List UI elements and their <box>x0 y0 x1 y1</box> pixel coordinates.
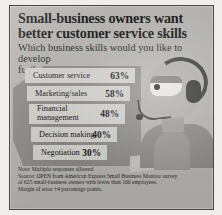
chart-row-value: 63% <box>110 71 129 81</box>
page-title-line-1: Small-business owners want <box>18 11 208 26</box>
agent-torso-highlight <box>154 130 190 170</box>
chart-row: Negotiation 30% <box>33 145 107 160</box>
chart-row-value: 48% <box>100 109 119 119</box>
chart-row-label: Financial management <box>37 105 79 122</box>
chart-row-value: 30% <box>82 148 101 158</box>
chart-row: Financial management 48% <box>29 104 125 124</box>
page-title-line-2: better customer service skills <box>18 26 208 41</box>
infographic-frame: Small-business owners want better custom… <box>0 0 222 215</box>
chart-row-label: Negotiation <box>41 148 80 157</box>
chart-row-label: Customer service <box>33 71 90 80</box>
chart-row: Marketing/sales 58% <box>27 86 130 101</box>
chart-row: Decision making 40% <box>31 127 117 142</box>
page-title: Small-business owners want better custom… <box>18 11 208 40</box>
footnotes: Note: Multiple responses allowed Source:… <box>18 166 208 192</box>
chart-row-value: 40% <box>92 130 111 140</box>
chart-row-value: 58% <box>105 89 124 99</box>
chart-row: Customer service 63% <box>25 68 135 83</box>
footnote-margin-of-error: Margin of error ±4 percentage points. <box>18 186 208 193</box>
survey-step-chart: Customer service 63% Marketing/sales 58%… <box>13 66 141 166</box>
chart-row-label: Marketing/sales <box>35 89 87 98</box>
headset-earcup-icon <box>186 80 201 103</box>
headset-microphone-icon <box>136 114 143 120</box>
customer-service-agent-illustration <box>136 58 212 168</box>
chart-row-label: Decision making <box>39 130 95 139</box>
infographic-panel: Small-business owners want better custom… <box>9 5 214 210</box>
